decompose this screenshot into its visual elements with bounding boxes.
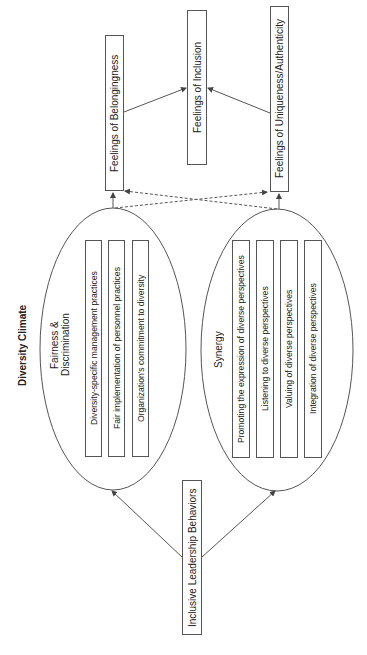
inclusive-leadership-box: Inclusive Leadership Behaviors — [182, 480, 202, 635]
uniqueness-box: Feelings of Uniqueness/Authenticity — [270, 6, 289, 192]
uniqueness-label: Feelings of Uniqueness/Authenticity — [274, 20, 285, 179]
inclusion-label: Feelings of Inclusion — [192, 42, 203, 133]
synergy-label: Synergy — [210, 300, 226, 400]
inclusion-box: Feelings of Inclusion — [187, 10, 207, 165]
synergy-item: Valuing of diverse perspectives — [280, 240, 298, 458]
synergy-item: Listening to diverse perspectives — [256, 240, 274, 458]
synergy-item: Integration of diverse perspectives — [304, 240, 322, 458]
diversity-climate-diagram: Feelings of Belongingness Feelings of In… — [0, 0, 367, 655]
belongingness-label: Feelings of Belongingness — [109, 54, 120, 171]
inclusive-leadership-label: Inclusive Leadership Behaviors — [187, 488, 198, 626]
belongingness-box: Feelings of Belongingness — [105, 35, 124, 191]
synergy-item: Promoting the expression of diverse pers… — [232, 240, 250, 458]
diversity-climate-title: Diversity Climate — [14, 300, 30, 390]
fairness-item: Organization's commitment to diversity — [132, 240, 149, 457]
fairness-label: Fairness & Discrimination — [44, 300, 76, 390]
fairness-item: Diversity-specific management practices — [85, 240, 102, 457]
fairness-item: Fair implementation of personnel practic… — [108, 240, 125, 457]
